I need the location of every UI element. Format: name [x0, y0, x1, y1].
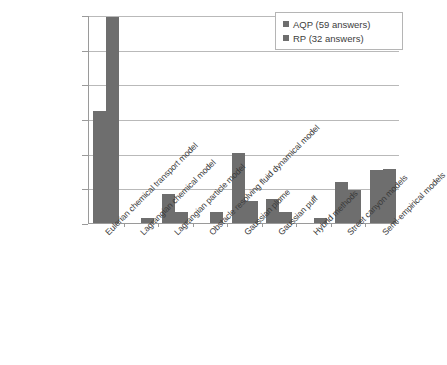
legend-label-aqp: AQP (59 answers) [293, 19, 370, 30]
legend-swatch-icon [283, 21, 289, 27]
legend-item-aqp[interactable]: AQP (59 answers) [283, 17, 397, 31]
x-axis-tick-mark [365, 223, 366, 227]
legend-item-rp[interactable]: RP (32 answers) [283, 31, 397, 45]
chart-legend: AQP (59 answers) RP (32 answers) [275, 12, 403, 50]
bar[interactable] [106, 17, 119, 223]
legend-label-rp: RP (32 answers) [293, 33, 364, 44]
y-axis-tick-mark [82, 224, 88, 225]
legend-swatch-icon [283, 35, 289, 41]
bar[interactable] [93, 111, 106, 223]
x-axis-tick-mark [124, 223, 125, 227]
x-axis-tick-mark [193, 223, 194, 227]
